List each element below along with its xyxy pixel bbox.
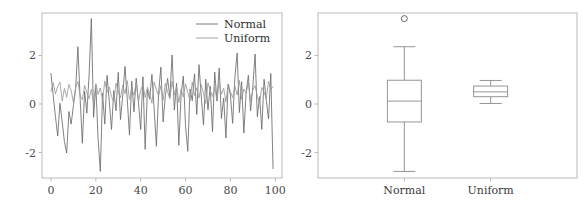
x-tick-label: 20: [89, 184, 103, 197]
outlier-point-normal: [401, 16, 407, 22]
y-tick-label: 0: [305, 98, 312, 111]
line-chart-svg: -202020406080100NormalUniform: [0, 0, 290, 205]
y-tick-label: -2: [301, 147, 312, 160]
category-label-uniform: Uniform: [468, 184, 515, 197]
box-chart-panel: -202NormalUniform: [290, 0, 585, 205]
box-plot-frame: [318, 13, 577, 178]
x-tick-label: 60: [179, 184, 193, 197]
legend-label-uniform: Uniform: [224, 32, 271, 45]
y-tick-label: 2: [29, 49, 36, 62]
x-tick-label: 0: [47, 184, 54, 197]
x-tick-label: 80: [223, 184, 237, 197]
boxplot-uniform: [474, 80, 508, 103]
x-tick-label: 40: [134, 184, 148, 197]
y-tick-label: 0: [29, 98, 36, 111]
figure-container: -202020406080100NormalUniform -202Normal…: [0, 0, 585, 205]
box-iqr-uniform: [474, 86, 508, 97]
x-tick-label: 100: [265, 184, 286, 197]
y-tick-label: -2: [25, 147, 36, 160]
boxplot-normal: [387, 16, 421, 172]
y-tick-label: 2: [305, 49, 312, 62]
category-label-normal: Normal: [383, 184, 425, 197]
legend-label-normal: Normal: [224, 18, 266, 31]
line-chart-panel: -202020406080100NormalUniform: [0, 0, 290, 205]
box-chart-svg: -202NormalUniform: [290, 0, 585, 205]
